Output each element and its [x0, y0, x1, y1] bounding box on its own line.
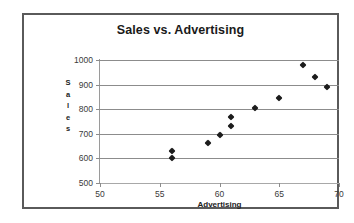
y-axis-title-letter: s — [62, 123, 74, 135]
y-axis-title: S a l e s — [62, 77, 74, 135]
y-gridline — [100, 85, 339, 86]
chart-container: Sales vs. Advertising S a l e s 50060070… — [22, 13, 339, 209]
y-tick-mark — [96, 60, 100, 61]
data-point — [312, 74, 319, 81]
y-gridline — [100, 109, 339, 110]
y-axis-title-letter: S — [62, 77, 74, 89]
y-tick-label: 1000 — [74, 55, 93, 65]
chart-title: Sales vs. Advertising — [24, 23, 337, 37]
y-axis-title-letter: e — [62, 112, 74, 124]
y-tick-label: 500 — [79, 178, 93, 188]
y-tick-label: 600 — [79, 153, 93, 163]
x-tick-label: 60 — [215, 189, 224, 199]
x-tick-label: 55 — [155, 189, 164, 199]
data-point — [204, 139, 211, 146]
y-tick-mark — [96, 109, 100, 110]
y-tick-label: 800 — [79, 104, 93, 114]
data-point — [276, 95, 283, 102]
data-point — [300, 62, 307, 69]
data-point — [168, 147, 175, 154]
y-tick-mark — [96, 134, 100, 135]
x-axis-title: Advertising — [100, 200, 339, 209]
x-tick-mark — [339, 183, 340, 187]
y-tick-label: 700 — [79, 129, 93, 139]
y-tick-mark — [96, 85, 100, 86]
x-tick-label: 65 — [275, 189, 284, 199]
y-gridline — [100, 158, 339, 159]
x-tick-mark — [160, 183, 161, 187]
y-axis-title-letter: l — [62, 100, 74, 112]
x-tick-label: 50 — [95, 189, 104, 199]
plot-area: 50060070080090010005055606570 — [100, 60, 339, 183]
x-tick-mark — [100, 183, 101, 187]
data-point — [216, 131, 223, 138]
x-tick-mark — [279, 183, 280, 187]
y-tick-label: 900 — [79, 80, 93, 90]
y-axis-title-letter: a — [62, 89, 74, 101]
x-tick-mark — [220, 183, 221, 187]
data-point — [168, 155, 175, 162]
data-point — [252, 104, 259, 111]
data-point — [228, 114, 235, 121]
x-tick-label: 70 — [334, 189, 343, 199]
data-point — [228, 123, 235, 130]
y-tick-mark — [96, 158, 100, 159]
